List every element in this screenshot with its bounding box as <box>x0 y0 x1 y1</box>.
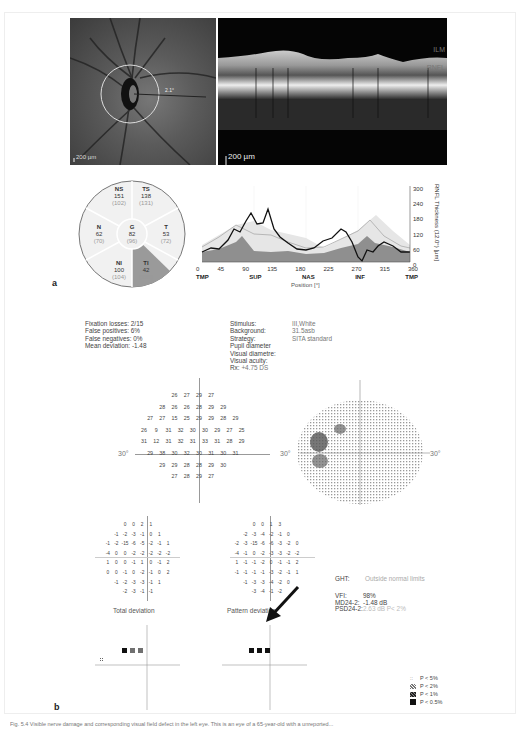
grid-value: 26 <box>170 392 180 398</box>
grid-value: -2 <box>293 551 302 556</box>
grid-value: 31 <box>163 438 173 444</box>
significance-legend: ::P < 5% P < 2% P < 1% P < 0.5% <box>410 674 442 706</box>
grid-value: 29 <box>157 462 167 468</box>
grid-value: 27 <box>157 415 167 421</box>
y-axis-ticks: 300240180120600 <box>413 182 423 273</box>
rnfl-label: RNFL <box>427 64 445 71</box>
grid-value: 32 <box>182 450 192 456</box>
rnfl-thickness-chart: 300240180120600 RNFL Thickness (12.0°) [… <box>196 178 436 303</box>
grid-value: 28 <box>224 438 234 444</box>
grid-value: 2 <box>164 560 173 565</box>
grid-value: 32 <box>176 438 186 444</box>
x-region-labels: TMPSUPNASINFTMP <box>196 274 418 280</box>
grid-value: 32 <box>176 427 186 433</box>
ilm-label: ILM <box>433 46 445 53</box>
figure-caption: Fig. 5.4 Visible nerve damage and corres… <box>10 721 510 727</box>
grid-value: 29 <box>206 404 216 410</box>
grid-value: 26 <box>139 427 149 433</box>
grid-value: 15 <box>170 415 180 421</box>
grid-value: 29 <box>170 462 180 468</box>
grid-value: 0 <box>284 580 293 585</box>
light-hatch-icon <box>410 684 416 689</box>
legend-p05: P < 0.5% <box>410 698 442 706</box>
axis-label-30-right: 30° <box>430 450 441 457</box>
sector-ni: NI100(104) <box>109 260 129 281</box>
grid-value: -1 <box>146 589 155 594</box>
dark-hatch-icon <box>410 692 416 697</box>
grid-value: 29 <box>194 473 204 479</box>
grid-value: 9 <box>151 427 161 433</box>
grid-value: 28 <box>194 462 204 468</box>
solid-square-icon <box>410 699 416 705</box>
total-deviation-numeric: 0021-1-2-3-101-1-2-15-6-5-2-11-400-2-2-2… <box>95 516 180 601</box>
grid-value: 29 <box>145 450 155 456</box>
oct-bscan-image: ILM RNFL 200 µm <box>218 18 447 165</box>
grid-value: 27 <box>145 415 155 421</box>
grid-value: 30 <box>170 450 180 456</box>
grid-value: 3 <box>275 522 284 527</box>
axis-label-30-left: 30° <box>118 450 129 457</box>
grid-value: 29 <box>212 427 222 433</box>
legend-p5: ::P < 5% <box>410 674 442 682</box>
grid-value: 29 <box>206 415 216 421</box>
grid-value: 27 <box>170 473 180 479</box>
grid-value: 0 <box>293 541 302 546</box>
grid-value: 29 <box>218 404 228 410</box>
grid-value: 1 <box>155 580 164 585</box>
grid-value: 1 <box>293 570 302 575</box>
test-parameters: Stimulus:III,White Background:31.5asb St… <box>230 320 332 372</box>
legend-p2: P < 2% <box>410 682 442 690</box>
x-axis-label: Position [°] <box>291 282 320 288</box>
grid-value: 1 <box>155 532 164 537</box>
grid-value: 31 <box>188 438 198 444</box>
grid-value: 1 <box>146 522 155 527</box>
grid-value: 29 <box>206 462 216 468</box>
grid-value: 28 <box>182 473 192 479</box>
sector-n: N62(70) <box>89 224 109 245</box>
grid-value: -2 <box>164 551 173 556</box>
dots-symbol-icon: :: <box>410 675 416 681</box>
total-deviation-probability-plot <box>95 625 180 710</box>
legend-p1: P < 1% <box>410 690 442 698</box>
grid-value: 31 <box>231 450 241 456</box>
grid-value: 27 <box>224 427 234 433</box>
arrow-icon <box>262 585 302 625</box>
reliability-indices: Fixation losses: 2/15 False positives: 6… <box>85 320 146 350</box>
axis-label-30-mid: 30° <box>280 450 291 457</box>
fundus-image: 2.1° 200 µm <box>70 18 216 165</box>
grid-value: 28 <box>218 415 228 421</box>
rnfl-sector-chart: NS151(102) TS138(131) N62(70) G82(96) T5… <box>65 174 200 300</box>
grid-value: 31 <box>206 450 216 456</box>
grid-value: 29 <box>194 392 204 398</box>
sector-ns: NS151(102) <box>109 186 129 207</box>
grid-value: 1 <box>164 541 173 546</box>
grid-value: 0 <box>284 532 293 537</box>
global-indices: VFI:98% MD24-2:-1.48 dB PSD24-2:2.63 dB … <box>335 593 406 613</box>
grid-value: 30 <box>218 450 228 456</box>
threshold-value-grid: 2627292728262628292927271525292928292693… <box>135 378 270 503</box>
greyscale-plot: 30° 30° <box>280 380 440 505</box>
grid-value: 2 <box>293 560 302 565</box>
grid-value: 29 <box>194 415 204 421</box>
y-axis-label: RNFL Thickness (12.0°) [µm] <box>434 184 440 261</box>
grid-value: 2 <box>164 570 173 575</box>
pattern-deviation-probability-plot <box>222 625 307 710</box>
grid-value: 31 <box>163 427 173 433</box>
sector-ts: TS138(131) <box>136 186 156 207</box>
total-deviation-label: Total deviation <box>113 607 155 614</box>
x-axis-ticks: 04590135180225270315360 <box>196 266 418 272</box>
grid-value: 25 <box>237 427 247 433</box>
grid-value: 28 <box>157 404 167 410</box>
grid-value: 31 <box>139 438 149 444</box>
grid-value: 28 <box>182 462 192 468</box>
grid-value: 27 <box>206 473 216 479</box>
grid-value: 26 <box>182 404 192 410</box>
fundus-scale-label: 200 µm <box>76 154 96 160</box>
svg-text:2.1°: 2.1° <box>165 87 174 93</box>
oct-scale-label: 200 µm <box>228 152 255 161</box>
panel-label-a: a <box>52 278 57 288</box>
grid-value: 26 <box>170 404 180 410</box>
grid-value: 30 <box>188 427 198 433</box>
sector-ti: TI42(131) <box>136 260 156 281</box>
sector-g: G82(96) <box>122 224 142 245</box>
